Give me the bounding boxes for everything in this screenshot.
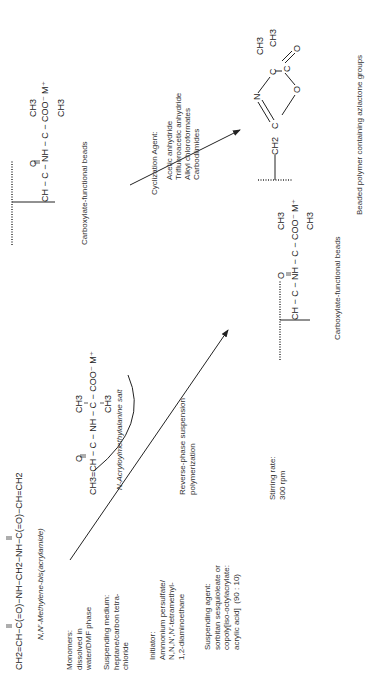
bead-formula: CH − C − NH − C − COO⁻ M⁺ — [290, 199, 300, 320]
start-label: Carboxylate-functional beads — [80, 141, 90, 245]
azlactone-methyl-2: CH3 — [268, 29, 278, 47]
monomer-methyl-top: CH3 — [74, 395, 84, 413]
azlactone-c2: C — [270, 123, 280, 130]
monomers-label: Monomers: dissolved in water/DMF phase — [65, 607, 94, 670]
crosslinker-formula: CH2=CH−C(=O)−NH−CH2−NH−C(=O)−CH=CH2 — [14, 472, 24, 670]
start-formula: CH − C − NH − C − COO⁻ M⁺ — [40, 81, 50, 202]
azlactone-methyl-1: CH3 — [255, 37, 265, 55]
monomer-methyl-bottom: CH3 — [103, 395, 113, 413]
initiator: Initiator: Ammonium persulfate/ N,N,N′,N… — [148, 580, 186, 660]
azlactone-n: N — [252, 94, 262, 101]
cyclization-title: Cyclization Agent: — [150, 131, 160, 195]
azlactone-carbonyl-o: O — [292, 45, 302, 52]
bead-carbonyl-o: O — [276, 272, 286, 279]
process-label: Reverse-phase suspension polymerization — [178, 398, 197, 495]
monomer-name: N-Acryloylmethylalanine salt — [115, 390, 125, 490]
azlactone-ch2: CH2 — [270, 137, 280, 155]
start-methyl-bottom: CH3 — [56, 99, 66, 117]
bead-methyl-bottom: CH3 — [305, 212, 315, 230]
agent-4: Carbodiimides — [192, 129, 202, 180]
crosslinker-name: N,N′-Methylene-bis(acrylamide) — [36, 528, 46, 640]
suspending-medium: Suspending medium: heptane/carbon tetra-… — [102, 594, 131, 671]
bead-methyl-top: CH3 — [276, 212, 286, 230]
product-label: Carboxylate-functional beads — [333, 236, 343, 340]
final-product-label: Beaded polymer containing azlactone grou… — [355, 55, 365, 215]
azlactone-c4: C — [268, 69, 278, 76]
monomer-formula: CH3=CH − C − NH − C − COO⁻ M⁺ — [88, 351, 98, 495]
monomer-carbonyl-o: O — [74, 455, 84, 462]
azlactone-o: O — [292, 86, 302, 93]
reaction-scheme: CH2=CH−C(=O)−NH−CH2−NH−C(=O)−CH=CH2 N,N′… — [0, 0, 373, 675]
start-methyl-top: CH3 — [28, 99, 38, 117]
azlactone-c5: C — [282, 66, 292, 73]
stirring-rate: Stirring rate: 300 rpm — [268, 456, 287, 500]
start-carbonyl-o: O — [28, 160, 38, 167]
suspending-agent: Suspending agent: sorbitan sesquioleate … — [203, 565, 241, 650]
